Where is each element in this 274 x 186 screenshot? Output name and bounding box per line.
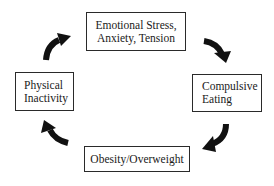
node-label-line: Obesity/Overweight <box>90 153 183 166</box>
arrow-inactivity-to-stress-icon <box>46 33 71 60</box>
node-label-line: Anxiety, Tension <box>97 32 175 45</box>
node-compulsive-eating: Compulsive Eating <box>192 74 262 112</box>
node-label-line: Physical <box>24 79 63 92</box>
node-label-line: Emotional Stress, <box>95 19 176 32</box>
arrow-stress-to-eating-icon <box>204 41 231 63</box>
arrow-obesity-to-inactivity-icon <box>41 120 68 143</box>
node-label-line: Eating <box>202 93 232 106</box>
node-physical-inactivity: Physical Inactivity <box>15 72 74 111</box>
node-obesity-overweight: Obesity/Overweight <box>84 146 190 172</box>
node-label-line: Compulsive <box>202 80 258 93</box>
node-emotional-stress: Emotional Stress, Anxiety, Tension <box>86 12 186 51</box>
arrow-eating-to-obesity-icon <box>202 124 226 152</box>
node-label-line: Inactivity <box>24 92 68 105</box>
